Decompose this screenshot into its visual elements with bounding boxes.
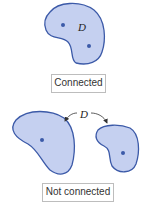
region-label-bottom: D — [79, 108, 88, 120]
caption-not-connected: Not connected — [42, 183, 114, 202]
arrow-right — [91, 113, 107, 123]
region-label-top: D — [77, 21, 86, 33]
caption-connected: Connected — [51, 74, 106, 93]
region-right — [96, 125, 138, 172]
connected-region — [45, 3, 105, 64]
point-3 — [40, 138, 44, 142]
point-2 — [87, 44, 91, 48]
point-4 — [121, 151, 125, 155]
diagram-canvas: D D — [0, 0, 150, 213]
point-1 — [61, 23, 65, 27]
